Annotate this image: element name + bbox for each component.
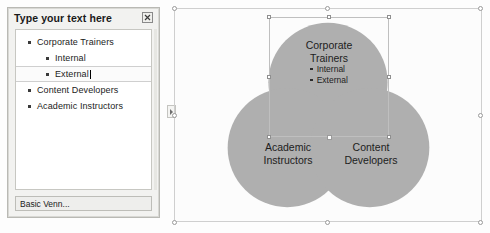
canvas-handle-s[interactable] [325, 220, 330, 225]
venn-sub-item: Internal [310, 64, 348, 75]
layout-name-label: Basic Venn... [20, 199, 70, 209]
venn-label-bottom-right[interactable]: Content Developers [321, 141, 421, 166]
smartart-canvas[interactable]: Corporate Trainers Internal External Aca… [174, 8, 482, 222]
bullet-icon [28, 41, 31, 44]
canvas-handle-e[interactable] [478, 113, 483, 118]
venn-diagram[interactable]: Corporate Trainers Internal External Aca… [175, 9, 481, 221]
list-item-label: Internal [55, 53, 86, 63]
list-item-label: Academic Instructors [37, 101, 123, 111]
list-item-label: Content Developers [37, 85, 118, 95]
venn-label-top[interactable]: Corporate Trainers Internal External [279, 39, 379, 86]
bullet-icon [46, 57, 49, 60]
text-pane-scroll-rail[interactable] [154, 29, 157, 190]
resize-handle-nw[interactable] [267, 15, 271, 19]
resize-handle-sw[interactable] [267, 135, 271, 139]
venn-title-line: Content [321, 141, 421, 154]
bullet-icon [28, 89, 31, 92]
text-pane-list-area[interactable]: Corporate Trainers Internal External Con… [15, 29, 152, 190]
text-caret [90, 70, 91, 79]
resize-handle-se[interactable] [387, 135, 391, 139]
smartart-text-pane[interactable]: Type your text here Corporate Trainers I… [7, 7, 160, 218]
layout-name-bar[interactable]: Basic Venn... [15, 196, 152, 211]
close-icon[interactable] [142, 12, 153, 23]
canvas-handle-se[interactable] [478, 220, 483, 225]
smartart-editor: Type your text here Corporate Trainers I… [0, 0, 490, 233]
bullet-icon [310, 68, 313, 71]
list-item[interactable]: Content Developers [16, 82, 151, 98]
list-item-active[interactable]: External [16, 66, 151, 82]
venn-title-line: Corporate [279, 39, 379, 52]
canvas-handle-ne[interactable] [478, 6, 483, 11]
bullet-icon [310, 79, 313, 82]
list-item[interactable]: Corporate Trainers [16, 34, 151, 50]
text-pane-list: Corporate Trainers Internal External Con… [16, 30, 151, 114]
resize-handle-s[interactable] [327, 135, 332, 140]
resize-handle-ne[interactable] [387, 15, 391, 19]
venn-sub-list: Internal External [310, 64, 348, 86]
bullet-icon [28, 105, 31, 108]
canvas-handle-nw[interactable] [172, 6, 177, 11]
venn-sub-item: External [310, 75, 348, 86]
canvas-handle-n[interactable] [325, 6, 330, 11]
list-item[interactable]: Internal [16, 50, 151, 66]
venn-title-line: Trainers [279, 52, 379, 65]
list-item-label: Corporate Trainers [37, 37, 114, 47]
canvas-handle-w[interactable] [172, 113, 177, 118]
resize-handle-w[interactable] [267, 75, 271, 79]
canvas-handle-sw[interactable] [172, 220, 177, 225]
venn-title-line: Developers [321, 154, 421, 167]
resize-handle-n[interactable] [327, 15, 331, 19]
list-item[interactable]: Academic Instructors [16, 98, 151, 114]
list-item-label: External [55, 69, 89, 79]
bullet-icon [46, 73, 49, 76]
text-pane-header: Type your text here [8, 8, 159, 27]
text-pane-title: Type your text here [14, 12, 112, 24]
resize-handle-e[interactable] [387, 75, 391, 79]
